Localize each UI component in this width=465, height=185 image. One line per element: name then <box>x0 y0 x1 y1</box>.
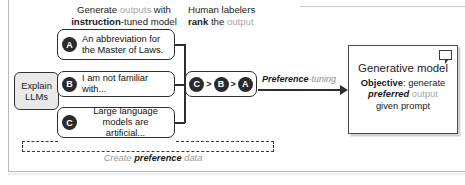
heading-generate-instruction-word: instruction <box>71 16 121 27</box>
option-badge-c: C <box>62 115 77 130</box>
heading-generate-outputs-word: outputs <box>120 4 151 15</box>
preference-data-region <box>22 141 274 152</box>
preference-tuning-arrow-line <box>258 89 343 91</box>
option-badge-b: B <box>62 77 77 92</box>
prompt-box: Explain LLMs <box>14 72 59 110</box>
preference-tuning-tail: -tuning <box>309 74 337 84</box>
heading-generate-line1-part2: with <box>151 4 171 15</box>
frame-left-rule <box>8 0 9 172</box>
ranking-badge-third: A <box>238 77 253 92</box>
option-box-a: A An abbreviation for the Master of Laws… <box>57 29 175 60</box>
option-text-b: I am not familiar with... <box>82 73 169 95</box>
create-preference-data-caption: Create preference data <box>58 153 248 163</box>
heading-generate-line1-part1: Generate <box>77 4 120 15</box>
option-box-b: B I am not familiar with... <box>57 71 175 97</box>
heading-generate-outputs: Generate outputs with instruction-tuned … <box>60 4 188 27</box>
option-text-c: Large language models are artificial... <box>82 106 169 138</box>
create-caption-part1: Create <box>104 153 135 163</box>
objective-given-prompt: given prompt <box>376 100 430 111</box>
preference-data-region-top-right <box>176 141 274 142</box>
heading-rank-mid: the <box>208 16 227 27</box>
preference-tuning-arrow-head-icon <box>340 85 348 95</box>
heading-rank-word: rank <box>188 16 208 27</box>
ranking-separator-2: > <box>231 79 236 89</box>
option-box-c: C Large language models are artificial..… <box>57 107 175 138</box>
heading-generate-line2-rest: -tuned model <box>121 16 177 27</box>
objective-output-word: output <box>409 88 438 99</box>
prompt-label: Explain LLMs <box>15 80 58 102</box>
objective-generate: : generate <box>403 77 445 88</box>
create-caption-bold: preference <box>134 153 182 163</box>
preference-tuning-bold: Preference <box>262 74 309 84</box>
ranking-badge-first: C <box>189 77 204 92</box>
ranking-badge-second: B <box>214 77 229 92</box>
heading-rank-line1: Human labelers <box>188 4 255 15</box>
objective-preferred-word: preferred <box>368 88 409 99</box>
heading-human-labelers: Human labelers rank the output <box>188 4 296 27</box>
preference-data-region-top-left <box>22 141 58 142</box>
frame-top-rule <box>300 6 465 7</box>
generative-model-panel: Generative model Objective: generate pre… <box>348 45 458 134</box>
create-caption-part2: data <box>182 153 203 163</box>
diagram-canvas: Generate outputs with instruction-tuned … <box>0 0 465 185</box>
frame-bottom-rule <box>8 171 465 172</box>
ranking-box: C > B > A <box>185 71 257 97</box>
speech-bubble-icon <box>439 50 452 60</box>
frame-bottom-shadow <box>8 173 465 176</box>
generative-model-objective: Objective: generate preferred output giv… <box>354 77 452 111</box>
ranking-separator-1: > <box>206 79 211 89</box>
preference-tuning-label: Preference-tuning <box>262 74 336 84</box>
option-text-a: An abbreviation for the Master of Laws. <box>82 34 169 56</box>
generative-model-title: Generative model <box>354 62 452 75</box>
heading-rank-output-word: output <box>227 16 254 27</box>
objective-label: Objective <box>361 77 403 88</box>
option-badge-a: A <box>62 37 77 52</box>
